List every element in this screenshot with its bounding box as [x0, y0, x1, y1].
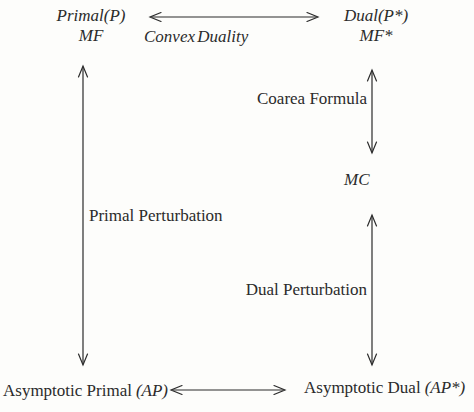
convex-duality-arrow: [148, 10, 320, 24]
node-asymptotic-dual: Asymptotic Dual(AP*): [304, 378, 465, 398]
asymptotic-duality-arrow: [169, 383, 287, 397]
node-dual-line2: MF*: [318, 26, 434, 46]
edge-label-coarea-formula: Coarea Formula: [240, 89, 367, 109]
node-asymptotic-primal: Asymptotic Primal(AP): [3, 381, 168, 401]
node-primal-line2: MF: [30, 26, 152, 46]
node-asymptotic-primal-text: Asymptotic Primal: [3, 381, 132, 400]
edge-label-primal-perturbation: Primal Perturbation: [89, 206, 223, 226]
node-primal-line1: Primal(P): [30, 6, 152, 26]
coarea-formula-arrow: [365, 68, 379, 155]
edge-label-convex-duality: Convex Duality: [144, 27, 248, 47]
node-primal: Primal(P) MF: [30, 6, 152, 46]
node-asymptotic-primal-math: (AP): [136, 381, 168, 400]
node-asymptotic-dual-math: (AP*): [425, 378, 466, 397]
edge-label-dual-perturbation: Dual Perturbation: [240, 280, 367, 300]
node-asymptotic-dual-text: Asymptotic Dual: [304, 378, 421, 397]
primal-perturbation-arrow: [76, 64, 90, 367]
node-mc: MC: [344, 170, 370, 190]
node-dual-line1: Dual(P*): [318, 6, 434, 26]
node-dual: Dual(P*) MF*: [318, 6, 434, 46]
dual-perturbation-arrow: [365, 213, 379, 367]
duality-diagram: Primal(P) MF Convex Duality Dual(P*) MF*…: [0, 0, 474, 412]
